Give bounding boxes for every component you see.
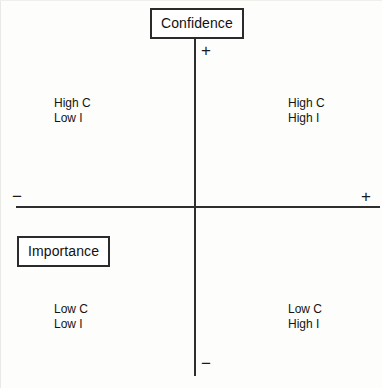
horizontal-axis-title: Importance xyxy=(17,236,110,267)
quadrant-label-line: Low C xyxy=(54,302,88,317)
quadrant-label-line: Low C xyxy=(288,302,322,317)
vertical-axis-line xyxy=(194,37,196,376)
quadrant-label-line: High C xyxy=(54,96,91,111)
quadrant-diagram: Confidence Importance + − − + High C Low… xyxy=(0,0,382,388)
vertical-axis-positive-sign: + xyxy=(198,42,214,59)
page-edge-left xyxy=(0,0,1,388)
quadrant-label-line: High I xyxy=(288,317,322,332)
horizontal-axis-line xyxy=(16,206,380,208)
quadrant-label-top-right: High C High I xyxy=(288,96,325,126)
page-edge-top xyxy=(0,0,382,1)
quadrant-label-bottom-right: Low C High I xyxy=(288,302,322,332)
quadrant-label-bottom-left: Low C Low I xyxy=(54,302,88,332)
quadrant-label-line: Low I xyxy=(54,111,91,126)
quadrant-label-line: High C xyxy=(288,96,325,111)
quadrant-label-top-left: High C Low I xyxy=(54,96,91,126)
vertical-axis-negative-sign: − xyxy=(198,355,214,372)
quadrant-label-line: High I xyxy=(288,111,325,126)
quadrant-label-line: Low I xyxy=(54,317,88,332)
vertical-axis-title: Confidence xyxy=(150,8,244,39)
horizontal-axis-negative-sign: − xyxy=(9,188,25,205)
horizontal-axis-positive-sign: + xyxy=(358,188,374,205)
